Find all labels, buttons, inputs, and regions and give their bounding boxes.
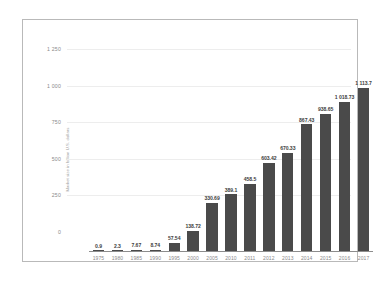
bar[interactable] xyxy=(339,102,350,251)
bar-group[interactable]: 670.332013 xyxy=(282,68,293,251)
bar-chart-figure: Market size in billion U.S. dollars 0250… xyxy=(0,0,381,283)
bar-group[interactable]: 389.12010 xyxy=(225,68,236,251)
bar-group[interactable]: 938.652015 xyxy=(320,68,331,251)
bar-value-label: 2.3 xyxy=(114,243,121,249)
bar-value-label: 389.1 xyxy=(225,187,238,193)
bar[interactable] xyxy=(169,243,180,251)
x-axis-tick-label: 1975 xyxy=(93,255,105,261)
y-axis-tick-label: 750 xyxy=(23,119,61,125)
bar-group[interactable]: 2.31980 xyxy=(112,68,123,251)
x-axis-tick-label: 1985 xyxy=(131,255,143,261)
x-axis-tick-label: 1995 xyxy=(168,255,180,261)
bar-value-label: 458.5 xyxy=(244,176,257,182)
bar-group[interactable]: 1 113.72017 xyxy=(358,68,369,251)
x-axis-tick-label: 2013 xyxy=(282,255,294,261)
x-axis-tick-label: 2000 xyxy=(187,255,199,261)
bar[interactable] xyxy=(131,250,142,251)
bar[interactable] xyxy=(282,153,293,251)
y-axis-tick-label: 1 250 xyxy=(23,46,61,52)
bar-value-label: 938.65 xyxy=(318,106,333,112)
x-axis-tick-label: 2014 xyxy=(301,255,313,261)
x-axis-tick-label: 2005 xyxy=(206,255,218,261)
bar[interactable] xyxy=(206,203,217,251)
bar-value-label: 138.72 xyxy=(185,223,200,229)
bar[interactable] xyxy=(225,194,236,251)
bar-value-label: 7.67 xyxy=(131,242,141,248)
bar[interactable] xyxy=(320,114,331,251)
bar[interactable] xyxy=(301,124,312,251)
bar-value-label: 603.42 xyxy=(261,155,276,161)
y-axis-tick-label: 250 xyxy=(23,192,61,198)
bar-value-label: 1 018.73 xyxy=(335,94,354,100)
bar-value-label: 57.54 xyxy=(168,235,181,241)
bar-group[interactable]: 57.541995 xyxy=(169,68,180,251)
bar-value-label: 867.43 xyxy=(299,117,314,123)
x-axis-tick-label: 2012 xyxy=(263,255,275,261)
x-axis-tick-label: 1990 xyxy=(149,255,161,261)
bar-value-label: 670.33 xyxy=(280,145,295,151)
chart-frame: Market size in billion U.S. dollars 0250… xyxy=(22,19,358,262)
bar-group[interactable]: 8.741990 xyxy=(150,68,161,251)
bar[interactable] xyxy=(150,250,161,251)
y-axis-tick-label: 0 xyxy=(23,229,61,235)
x-axis-tick-label: 2016 xyxy=(339,255,351,261)
bar[interactable] xyxy=(93,250,104,251)
bar-group[interactable]: 867.432014 xyxy=(301,68,312,251)
bar-value-label: 8.74 xyxy=(150,242,160,248)
x-axis-tick-label: 2010 xyxy=(225,255,237,261)
plot-area: 0.919752.319807.6719858.74199057.5419951… xyxy=(89,68,373,251)
y-axis-tick-label: 500 xyxy=(23,156,61,162)
bar[interactable] xyxy=(263,163,274,251)
bar-group[interactable]: 1 018.732016 xyxy=(339,68,350,251)
x-axis-tick-label: 2015 xyxy=(320,255,332,261)
bar-value-label: 0.9 xyxy=(95,243,102,249)
x-axis-tick-label: 1980 xyxy=(112,255,124,261)
bar-group[interactable]: 0.91975 xyxy=(93,68,104,251)
bar[interactable] xyxy=(112,250,123,251)
bar[interactable] xyxy=(187,231,198,251)
bar-group[interactable]: 458.52011 xyxy=(244,68,255,251)
bar-group[interactable]: 330.692005 xyxy=(206,68,217,251)
bar-value-label: 1 113.7 xyxy=(355,80,371,86)
bar-group[interactable]: 138.722000 xyxy=(187,68,198,251)
gridline xyxy=(67,49,351,50)
bar-group[interactable]: 7.671985 xyxy=(131,68,142,251)
x-axis-tick-label: 2011 xyxy=(244,255,255,261)
x-axis-tick-label: 2017 xyxy=(358,255,370,261)
y-axis-tick-label: 1 000 xyxy=(23,83,61,89)
bar[interactable] xyxy=(244,184,255,251)
bar-group[interactable]: 603.422012 xyxy=(263,68,274,251)
x-axis-line xyxy=(89,251,373,252)
bar[interactable] xyxy=(358,88,369,251)
bar-value-label: 330.69 xyxy=(204,195,219,201)
